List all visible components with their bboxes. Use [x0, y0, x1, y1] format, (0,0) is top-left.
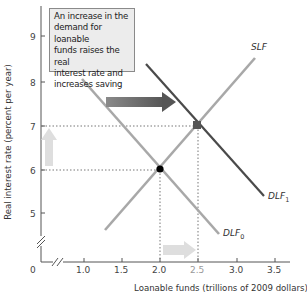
x-axis-label: Loanable funds (trillions of 2009 dollar… [134, 283, 307, 293]
dlf0-label-main: DLF [223, 228, 240, 238]
x-tick-1.5: 1.5 [114, 265, 128, 275]
guide-lines [42, 126, 198, 262]
annotation-line: funds raises the real [54, 45, 130, 68]
y-tick-8: 8 [30, 78, 36, 88]
x-tick-0: 0 [30, 265, 36, 275]
annotation-line: An increase in the [54, 11, 130, 22]
x-tick-1.0: 1.0 [76, 265, 91, 275]
y-tick-9: 9 [30, 32, 36, 42]
slf-label: SLF [251, 42, 267, 52]
dlf0-label-sub: 0 [240, 233, 244, 241]
dlf1-label-sub: 1 [285, 196, 289, 204]
dlf0-label: DLF0 [223, 228, 244, 241]
demand-shift-arrow [106, 92, 176, 112]
initial-equilibrium-point [156, 165, 163, 172]
y-tick-7: 7 [30, 122, 36, 132]
annotation-line: increases saving [54, 79, 130, 90]
x-tick-2.0: 2.0 [152, 265, 167, 275]
x-tick-3.0: 3.0 [229, 265, 244, 275]
x-tick-3.5: 3.5 [267, 265, 281, 275]
saving-increase-arrow [163, 241, 196, 259]
dlf1-label-main: DLF [268, 191, 285, 201]
y-axis-label: Real interest rate (percent per year) [3, 57, 15, 227]
annotation-line: demand for loanable [54, 22, 130, 45]
new-equilibrium-point [193, 121, 201, 129]
x-tick-2.5: 2.5 [190, 265, 204, 275]
annotation-box: An increase in the demand for loanable f… [49, 8, 135, 72]
y-tick-5: 5 [30, 209, 36, 219]
interest-rate-rise-arrow [41, 128, 57, 166]
annotation-line: interest rate and [54, 68, 130, 79]
dlf1-label: DLF1 [268, 191, 289, 204]
dlf1-curve [146, 64, 264, 196]
y-tick-6: 6 [30, 166, 36, 176]
